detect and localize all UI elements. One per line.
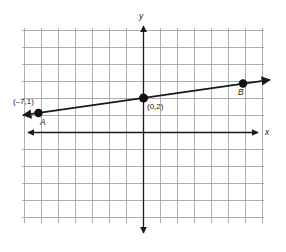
point-a-name-label: A [40,118,46,127]
point-origin-coordinate-label: (0,2) [147,103,163,111]
y-axis-label: y [139,12,143,21]
point-a-coordinate-label: (–7,1) [13,98,34,106]
x-axis-label: x [265,128,269,137]
point-b-name-label: B [238,88,244,97]
point-a-marker [34,109,42,117]
coordinate-plane-figure: (–7,1) A (0,2) B y x [0,0,286,252]
